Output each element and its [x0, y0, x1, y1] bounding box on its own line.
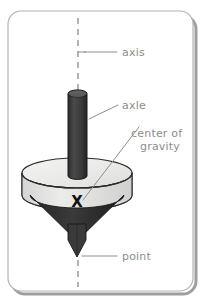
label-point: point	[122, 250, 152, 263]
spinning-top-figure: X axis axle center of gravity point	[0, 0, 207, 307]
axle-body	[68, 90, 87, 179]
center-of-gravity-x-icon: X	[71, 193, 83, 211]
diagram-canvas: X axis axle center of gravity point	[0, 0, 207, 307]
label-axis: axis	[122, 46, 145, 59]
label-axle: axle	[122, 99, 146, 112]
label-center-of-gravity-line2: gravity	[140, 140, 180, 153]
label-center-of-gravity-line1: center of	[131, 127, 183, 140]
